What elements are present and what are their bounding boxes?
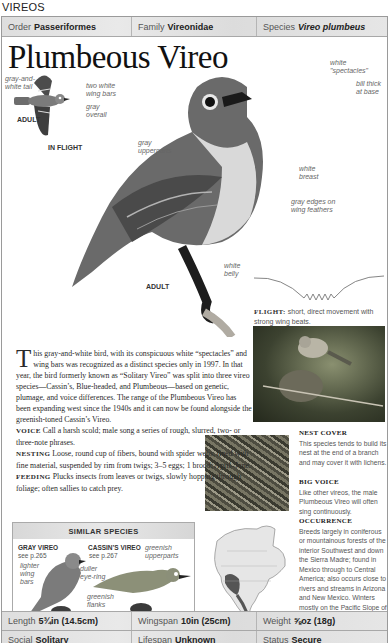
drop-cap: T [16,349,31,369]
stats-row-1: Length 5¾in (14.5cm) Wingspan 10in (25cm… [2,611,387,630]
flight-heading: FLIGHT: [254,308,286,316]
section-label: VIREOS [2,1,45,13]
nest-cover-heading: NEST COVER [299,429,389,439]
label-gray-edges: gray edges on wing feathers [291,198,351,214]
family-label: Family [138,22,165,32]
order-value: Passeriformes [34,22,96,32]
intro-paragraph: his gray-and-white bird, with its conspi… [16,349,252,424]
status-value: Secure [292,635,322,643]
label-white-belly: white belly [224,262,244,278]
species-label: Species [263,22,295,32]
order-label: Order [8,22,31,32]
label-gray-white-tail: gray-and-white tail [5,75,35,91]
similar-species-heading: SIMILAR SPECIES [13,523,194,539]
big-voice-text: Like other vireos, the male Plumbeous Vi… [299,488,389,517]
feeding-heading: FEEDING [16,473,51,481]
label-white-breast: white breast [299,165,329,181]
stat-lifespan: Lifespan Unknown [132,631,257,643]
wingspan-label: Wingspan [138,616,178,626]
flight-description: FLIGHT: short, direct movement with stro… [254,307,384,327]
weight-label: Weight [263,616,291,626]
range-map [207,521,292,621]
species-value: Vireo plumbeus [298,22,365,32]
occurrence-heading: OCCURRENCE [299,517,389,527]
lifespan-value: Unknown [175,635,216,643]
nest-photo [253,326,385,422]
similar-species-illustrations [13,539,196,618]
stat-weight: Weight ⅝oz (18g) [257,612,387,630]
length-value: 5¾in (14.5cm) [39,616,99,626]
social-value: Solitary [36,635,69,643]
social-label: Social [8,635,33,643]
status-label: Status [263,635,289,643]
voice-heading: VOICE [16,427,41,435]
vireo-on-nest-image [253,326,385,422]
similar-species-box: SIMILAR SPECIES GRAY VIREO see p.265 lig… [12,522,195,617]
caption-adult: ADULT [146,283,169,290]
taxonomy-bar: Order Passeriformes Family Vireonidae Sp… [2,17,387,37]
label-white-spectacles: white "spectacles" [330,59,370,75]
family-value: Vireonidae [168,22,214,32]
big-voice-block: BIG VOICE Like other vireos, the male Pl… [299,478,389,516]
lifespan-label: Lifespan [138,635,172,643]
label-gray-upperparts: gray upperparts [138,139,178,155]
length-label: Length [8,616,36,626]
flight-pattern-diagram [252,272,386,306]
species-description: This gray-and-white bird, with its consp… [16,348,252,494]
wingspan-value: 10in (25cm) [181,616,231,626]
stat-social: Social Solitary [2,631,132,643]
species-page: Order Passeriformes Family Vireonidae Sp… [1,16,388,643]
nest-cover-text: This species tends to build its nest at … [299,439,389,468]
taxonomy-species: Species Vireo plumbeus [257,17,387,36]
big-voice-heading: BIG VOICE [299,478,389,488]
occurrence-text: Breeds largely in coniferous or mountain… [299,527,389,622]
caption-flight-adult: ADULT [17,116,40,123]
label-bill-thick: bill thick at base [356,80,388,96]
nesting-heading: NESTING [16,450,50,458]
stat-status: Status Secure [257,631,387,643]
taxonomy-order: Order Passeriformes [2,17,132,36]
stat-length: Length 5¾in (14.5cm) [2,612,132,630]
taxonomy-family: Family Vireonidae [132,17,257,36]
stat-wingspan: Wingspan 10in (25cm) [132,612,257,630]
stats-row-2: Social Solitary Lifespan Unknown Status … [2,630,387,643]
voice-text: Call a harsh scold; male song a series o… [16,426,240,447]
nesting-text: Loose, round cup of fibers, bound with s… [16,449,251,470]
weight-value: ⅝oz (18g) [294,616,336,626]
nest-cover-block: NEST COVER This species tends to build i… [299,429,389,467]
occurrence-block: OCCURRENCE Breeds largely in coniferous … [299,517,389,622]
